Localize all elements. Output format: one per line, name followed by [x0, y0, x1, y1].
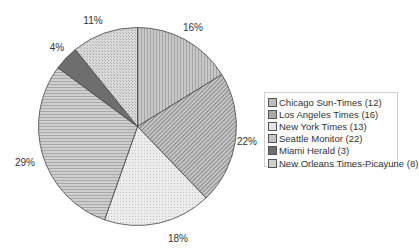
legend: Chicago Sun-Times (12)Los Angeles Times …: [264, 92, 398, 167]
legend-label: Miami Herald (3): [279, 145, 349, 156]
legend-label: Los Angeles Times (16): [279, 109, 378, 120]
legend-label: New York Times (13): [279, 121, 367, 132]
legend-swatch-icon: [268, 122, 277, 131]
percent-label: 22%: [237, 136, 257, 147]
legend-swatch-icon: [268, 146, 277, 155]
legend-swatch-icon: [268, 110, 277, 119]
percent-label: 29%: [15, 157, 35, 168]
percent-label: 18%: [168, 233, 188, 244]
percent-label: 11%: [83, 15, 102, 26]
percent-label: 4%: [50, 42, 64, 53]
legend-item: New York Times (13): [268, 120, 397, 132]
legend-item: Miami Herald (3): [268, 145, 397, 157]
legend-item: New Orleans Times-Picayune (8): [268, 157, 397, 169]
pie-slices: [38, 28, 236, 226]
legend-item: Chicago Sun-Times (12): [268, 96, 397, 108]
legend-item: Los Angeles Times (16): [268, 108, 397, 120]
legend-item: Seattle Monitor (22): [268, 133, 397, 145]
percent-label: 16%: [183, 22, 203, 33]
legend-label: Chicago Sun-Times (12): [279, 97, 382, 108]
legend-swatch-icon: [268, 134, 277, 143]
legend-swatch-icon: [268, 98, 277, 107]
legend-swatch-icon: [268, 159, 277, 168]
legend-label: New Orleans Times-Picayune (8): [279, 158, 418, 169]
legend-label: Seattle Monitor (22): [279, 133, 362, 144]
